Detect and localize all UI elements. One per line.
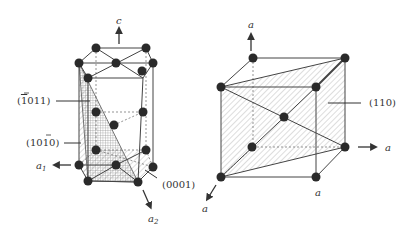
a2-axis-arrow [143, 190, 150, 206]
a1-axis-label: a1 [36, 160, 46, 173]
a2-axis-label: a2 [148, 213, 159, 226]
hexagonal-unit-cell [56, 30, 158, 206]
cube-front-axis-arrow [208, 185, 216, 198]
cube-edge-label: a [315, 187, 321, 198]
cubic-unit-cell [208, 36, 374, 198]
leader-basal [145, 170, 157, 178]
cube-right-axis-label: a [385, 142, 391, 153]
plane-prismatic-label: (1010) [26, 137, 59, 148]
plane-pyramidal-label: (1011) [17, 95, 50, 106]
c-axis-label: c [116, 15, 122, 26]
plane-110-label: (110) [369, 97, 396, 108]
crystal-planes-figure: c a1 a2 (1011) (1010) (0001) [0, 0, 410, 239]
cube-front-axis-label: a [202, 203, 208, 214]
cube-top-axis-label: a [248, 19, 254, 30]
plane-basal-label: (0001) [162, 179, 195, 190]
